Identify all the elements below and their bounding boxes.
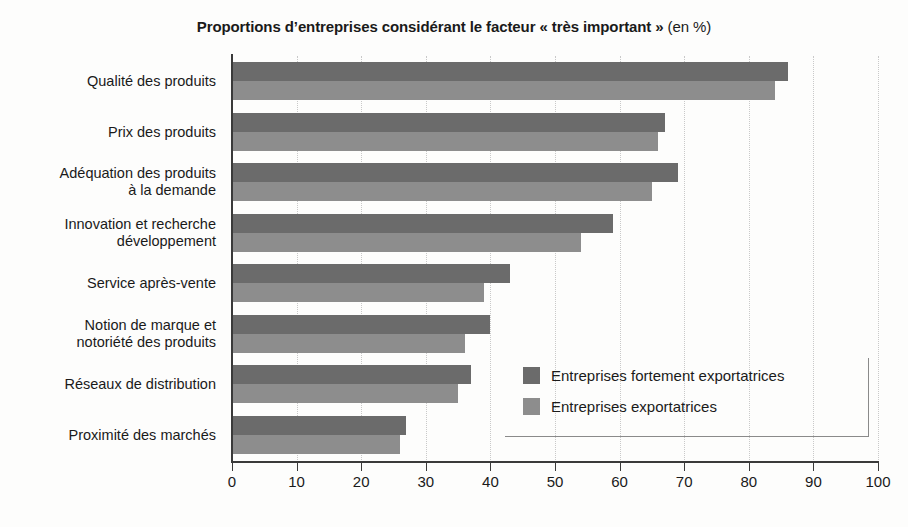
bar xyxy=(232,132,658,151)
category-label-line: notoriété des produits xyxy=(77,334,216,351)
category-label-line: Réseaux de distribution xyxy=(64,376,216,393)
x-tick-label-70: 70 xyxy=(676,473,693,490)
x-tick-mark-20 xyxy=(361,463,362,471)
bar xyxy=(232,384,458,403)
category-label-line: Prix des produits xyxy=(108,123,216,140)
bar xyxy=(232,435,400,454)
category-label-line: Qualité des produits xyxy=(87,73,216,90)
category-label: Service après-vente xyxy=(87,275,216,292)
gridline-100 xyxy=(878,56,879,460)
x-tick-mark-50 xyxy=(555,463,556,471)
bar xyxy=(232,62,788,81)
chart-title-unit: (en %) xyxy=(664,18,712,35)
legend-entry-0: Entreprises fortement exportatrices xyxy=(523,364,784,386)
category-label-line: Proximité des marchés xyxy=(69,426,216,443)
x-tick-label-90: 90 xyxy=(805,473,822,490)
category-label: Notion de marque etnotoriété des produit… xyxy=(77,317,216,351)
legend-entry-1: Entreprises exportatrices xyxy=(523,395,717,417)
x-tick-mark-60 xyxy=(620,463,621,471)
x-tick-label-100: 100 xyxy=(865,473,890,490)
x-tick-mark-100 xyxy=(878,463,879,471)
x-tick-mark-70 xyxy=(684,463,685,471)
legend-swatch-icon-series0 xyxy=(523,367,540,384)
x-tick-mark-90 xyxy=(813,463,814,471)
x-tick-mark-40 xyxy=(490,463,491,471)
x-tick-mark-0 xyxy=(232,463,233,471)
bar xyxy=(232,315,490,334)
bar xyxy=(232,365,471,384)
bar xyxy=(232,334,465,353)
category-label: Qualité des produits xyxy=(87,73,216,90)
category-label: Réseaux de distribution xyxy=(64,376,216,393)
x-tick-label-80: 80 xyxy=(740,473,757,490)
x-tick-label-20: 20 xyxy=(353,473,370,490)
x-tick-label-30: 30 xyxy=(417,473,434,490)
category-label: Adéquation des produitsà la demande xyxy=(60,165,216,199)
bar xyxy=(232,283,484,302)
legend-label-series0: Entreprises fortement exportatrices xyxy=(551,367,784,384)
chart-title-main: Proportions d’entreprises considérant le… xyxy=(197,18,664,35)
legend-swatch-icon-series1 xyxy=(523,398,540,415)
category-label-line: Innovation et recherche xyxy=(64,216,216,233)
bar-chart: Proportions d’entreprises considérant le… xyxy=(0,0,908,527)
x-tick-label-60: 60 xyxy=(611,473,628,490)
x-tick-label-0: 0 xyxy=(228,473,236,490)
category-label: Proximité des marchés xyxy=(69,426,216,443)
category-label: Prix des produits xyxy=(108,123,216,140)
category-label-line: Notion de marque et xyxy=(77,317,216,334)
x-tick-mark-80 xyxy=(749,463,750,471)
x-tick-label-40: 40 xyxy=(482,473,499,490)
x-tick-label-10: 10 xyxy=(288,473,305,490)
category-label-line: Service après-vente xyxy=(87,275,216,292)
category-axis-labels: Qualité des produitsPrix des produitsAdé… xyxy=(0,0,224,527)
bar xyxy=(232,214,613,233)
category-label-line: développement xyxy=(64,233,216,250)
x-tick-mark-30 xyxy=(426,463,427,471)
x-tick-mark-10 xyxy=(297,463,298,471)
category-label: Innovation et recherchedéveloppement xyxy=(64,216,216,250)
bar xyxy=(232,416,406,435)
category-label-line: à la demande xyxy=(60,182,216,199)
bar xyxy=(232,163,678,182)
y-axis-line xyxy=(231,54,233,462)
x-tick-label-50: 50 xyxy=(547,473,564,490)
bar xyxy=(232,182,652,201)
category-label-line: Adéquation des produits xyxy=(60,165,216,182)
bar xyxy=(232,81,775,100)
legend: Entreprises fortement exportatrices Entr… xyxy=(505,358,869,437)
bar xyxy=(232,233,581,252)
bar xyxy=(232,113,665,132)
legend-label-series1: Entreprises exportatrices xyxy=(551,398,717,415)
bar xyxy=(232,264,510,283)
